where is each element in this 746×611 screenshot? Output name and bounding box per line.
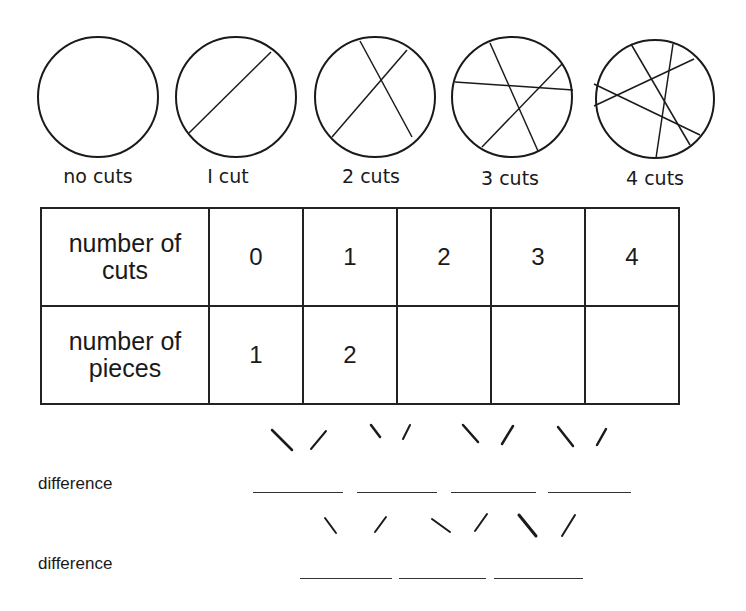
difference-blank[interactable] [451, 492, 536, 493]
difference-blank[interactable] [494, 578, 583, 579]
difference-blank[interactable] [548, 492, 631, 493]
difference-label-1: difference [38, 474, 112, 494]
difference-blank[interactable] [399, 578, 486, 579]
difference-ticks [0, 0, 746, 611]
difference-label-2: difference [38, 554, 112, 574]
difference-blank[interactable] [357, 492, 437, 493]
difference-blank[interactable] [300, 578, 392, 579]
difference-blank[interactable] [253, 492, 343, 493]
